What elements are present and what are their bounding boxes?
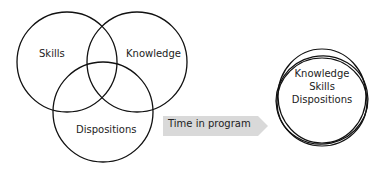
merged-labels: Knowledge Skills Dispositions xyxy=(287,67,357,106)
skills-label: Skills xyxy=(39,48,65,59)
dispositions-label: Dispositions xyxy=(76,124,137,135)
merged-skills: Skills xyxy=(287,80,357,93)
merged-knowledge: Knowledge xyxy=(287,67,357,80)
merged-dispositions: Dispositions xyxy=(287,93,357,106)
knowledge-label: Knowledge xyxy=(126,48,181,59)
arrow-label: Time in program xyxy=(168,118,251,129)
